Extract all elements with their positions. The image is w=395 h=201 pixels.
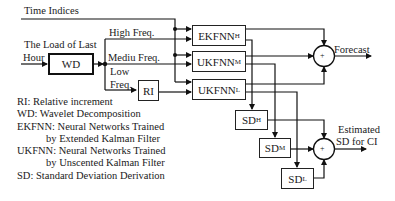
legend-item-ekfnn: EKFNN: Neural Networks Trained (17, 121, 165, 133)
ukfnn-l-subscript: L (236, 86, 240, 94)
ekfnn-h-subscript: H (235, 32, 240, 40)
forecast-label: Forecast (334, 44, 370, 56)
legend-item-sd: SD: Standard Deviation Derivation (17, 170, 165, 182)
medium-freq-label: Mediu Freq. (108, 52, 160, 64)
legend-item-ri: RI: Relative increment (17, 96, 165, 108)
ukfnn-m-block: UKFNNM (192, 51, 246, 72)
sd-summer-plus: + (320, 143, 325, 155)
forecast-summer-plus: + (320, 50, 325, 62)
estimated-sd-label-line1: Estimated (338, 124, 380, 136)
sd-l-block: SDL (281, 168, 314, 189)
estimated-sd-label-line2: SD for CI (336, 136, 377, 148)
legend-item-ekfnn-cont: by Extended Kalman Filter (17, 133, 165, 145)
wd-label: WD (62, 58, 80, 70)
sd-h-subscript: H (256, 116, 261, 124)
sd-m-label: SD (265, 142, 279, 154)
legend: RI: Relative increment WD: Wavelet Decom… (17, 96, 165, 182)
legend-item-ukfnn-cont: by Unscented Kalman Filter (17, 157, 165, 169)
sd-l-subscript: L (302, 175, 306, 183)
legend-item-wd: WD: Wavelet Decomposition (17, 108, 165, 120)
sd-m-subscript: M (279, 144, 285, 152)
time-indices-label: Time Indices (24, 5, 79, 17)
ekfnn-h-label: EKFNN (198, 30, 235, 42)
load-label-line1: The Load of Last (24, 39, 97, 51)
sd-m-block: SDM (259, 138, 291, 158)
load-label-line2: Hour (23, 52, 45, 64)
wd-block: WD (48, 53, 94, 75)
low-freq-label-line2: Freq. (110, 79, 132, 91)
sd-h-label: SD (242, 114, 256, 126)
ukfnn-m-label: UKFNN (197, 56, 235, 68)
ukfnn-l-label: UKFNN (198, 84, 236, 96)
ekfnn-h-block: EKFNNH (192, 25, 246, 46)
sd-h-block: SDH (235, 110, 268, 130)
ukfnn-l-block: UKFNNL (192, 79, 246, 100)
sd-l-label: SD (288, 173, 302, 185)
ukfnn-m-subscript: M (235, 58, 241, 66)
ri-label: RI (143, 85, 154, 97)
low-freq-label-line1: Low (110, 66, 129, 78)
high-freq-label: High Freq. (109, 27, 155, 39)
legend-item-ukfnn: UKFNN: Neural Networks Trained (17, 145, 165, 157)
